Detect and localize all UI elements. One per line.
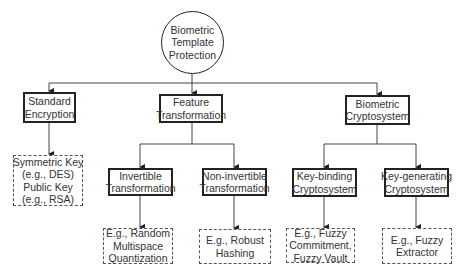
example-label: (e.g., DES) xyxy=(22,168,74,181)
example-noninvertible: E.g., Robust Hashing xyxy=(199,229,271,264)
node-label: Template xyxy=(171,36,214,49)
example-label: E.g., Fuzzy xyxy=(294,227,347,240)
node-standard-encryption: Standard Encryption xyxy=(23,92,76,123)
node-label: Feature xyxy=(173,96,209,109)
example-invertible: E.g., Random Multispace Quantization xyxy=(103,228,173,264)
root-node-biometric-template-protection: Biometric Template Protection xyxy=(161,11,224,74)
node-label: Cryptosystem xyxy=(345,110,409,123)
node-noninvertible-transformation: Non-invertible Transformation xyxy=(202,168,267,196)
node-label: Non-invertible xyxy=(202,170,267,183)
node-label: Key-generating xyxy=(381,170,452,183)
example-label: Fuzzy Vault xyxy=(293,252,347,265)
node-label: Key-binding xyxy=(297,170,352,183)
node-label: Transformation xyxy=(105,182,175,195)
node-invertible-transformation: Invertible Transformation xyxy=(108,168,173,196)
example-label: E.g., Fuzzy xyxy=(391,234,444,247)
example-label: Multispace xyxy=(113,240,163,253)
example-key-generating: E.g., Fuzzy Extractor xyxy=(382,228,452,264)
example-key-binding: E.g., Fuzzy Commitment, Fuzzy Vault xyxy=(286,228,355,263)
node-label: Biometric xyxy=(356,98,400,111)
node-label: Transformation xyxy=(199,182,269,195)
example-label: E.g., Robust xyxy=(206,234,264,247)
node-feature-transformation: Feature Transformation xyxy=(159,94,223,123)
node-label: Protection xyxy=(169,49,216,62)
node-label: Invertible xyxy=(119,170,162,183)
example-label: Symmetric Key xyxy=(13,156,84,169)
example-standard-encryption: Symmetric Key (e.g., DES) Public Key (e.… xyxy=(13,155,83,206)
node-key-binding-cryptosystem: Key-binding Cryptosystem xyxy=(292,168,357,197)
node-key-generating-cryptosystem: Key-generating Cryptosystem xyxy=(384,168,449,197)
example-label: Commitment, xyxy=(289,239,351,252)
example-label: (e.g., RSA) xyxy=(22,193,74,206)
example-label: Extractor xyxy=(396,246,438,259)
node-label: Transformation xyxy=(156,109,226,122)
node-label: Biometric xyxy=(171,24,215,37)
node-biometric-cryptosystem: Biometric Cryptosystem xyxy=(345,95,410,125)
example-label: E.g., Random xyxy=(106,227,170,240)
node-label: Cryptosystem xyxy=(292,183,356,196)
example-label: Quantization xyxy=(109,252,168,265)
node-label: Cryptosystem xyxy=(384,183,448,196)
node-label: Encryption xyxy=(25,108,75,121)
node-label: Standard xyxy=(28,95,71,108)
example-label: Hashing xyxy=(216,247,255,260)
example-label: Public Key xyxy=(23,181,73,194)
